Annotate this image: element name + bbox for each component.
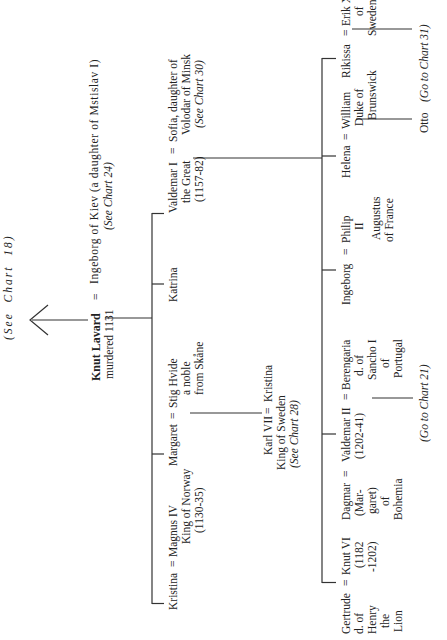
go-to-chart-31-reference: (Go to Chart 31) <box>418 24 431 102</box>
gen2-dagmar: Dagmar <box>340 483 353 520</box>
gen2-child-otto: Otto <box>418 113 431 133</box>
gen2-rikissa: Rikissa <box>340 44 353 78</box>
root-spouse-reference: (See Chart 24) <box>102 162 115 230</box>
gen1-sofia: Sofia, daughter of <box>167 59 180 142</box>
gen1-katrina: Katrina <box>167 268 180 302</box>
root-note: murdered 1131 <box>103 309 116 379</box>
gen2-gertrude: Gertrude <box>340 593 353 634</box>
gen2-berengaria: Berengaria <box>340 340 353 390</box>
gen1-magnus-iv: Magnus IV <box>167 505 180 557</box>
gen2-helena: Helena <box>340 145 353 178</box>
gen2-ingeborg: Ingeborg <box>340 264 353 305</box>
gen2-william: William <box>340 92 353 129</box>
karl-vii: Karl VII <box>262 416 275 455</box>
gen2-erik-x: Erik X <box>340 0 353 26</box>
gen2-philip-ii: Philip <box>340 216 353 243</box>
root-spouse: Ingeborg of Kiev (a daughter of Mstislav… <box>88 59 101 284</box>
gen2-valdemar-ii: Valdemar II <box>340 407 353 462</box>
gen1-kristina: Kristina <box>167 573 180 610</box>
gen1-margaret: Margaret <box>167 424 180 466</box>
gen1-child-kristina: Kristina <box>262 365 275 402</box>
go-to-chart-21-reference: (Go to Chart 21) <box>418 364 431 442</box>
gen1-valdemar-i: Valdemar I <box>167 162 180 213</box>
see-chart-30-reference: (See Chart 30) <box>193 60 206 128</box>
gen2-knut-vi: Knut VI <box>340 537 353 575</box>
connector-lines <box>0 0 447 640</box>
genealogy-chart: (See Chart 18) Knut Lavard murdered 1131… <box>0 0 447 640</box>
see-chart-18-reference: (See Chart 18) <box>2 235 15 340</box>
root-eq: = <box>90 294 103 301</box>
see-chart-28-reference: (See Chart 28) <box>288 400 301 468</box>
gen1-stig-hvide: Stig Hvide <box>167 358 180 408</box>
root-name: Knut Lavard <box>90 313 103 381</box>
